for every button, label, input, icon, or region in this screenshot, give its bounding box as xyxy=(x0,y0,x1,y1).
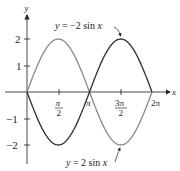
y-tick-label-neg2: −2 xyxy=(6,139,18,151)
x-tick-2pi: 2π xyxy=(151,98,161,108)
annotation-arrow-top xyxy=(114,27,121,36)
x-tick-pi-half-den: 2 xyxy=(57,108,62,118)
y-tick-label-1: 1 xyxy=(16,60,22,72)
sine-chart: x y 2 1 −1 −2 π 2 π 3π 2 2π y = −2 sin x… xyxy=(0,0,180,171)
annotation-2sinx: y = 2 sin x xyxy=(65,157,108,168)
annotation-neg2sinx: y = −2 sin x xyxy=(54,20,102,31)
y-axis-label: y xyxy=(24,3,29,13)
x-axis-label: x xyxy=(171,87,176,97)
y-tick-label-2: 2 xyxy=(15,33,21,45)
y-tick-label-neg1: −1 xyxy=(6,113,18,125)
x-tick-3pi-half-num: 3π xyxy=(115,98,125,108)
annotation-arrow-bottom xyxy=(115,148,120,162)
x-tick-pi-half-num: π xyxy=(56,98,61,108)
x-tick-3pi-half-den: 2 xyxy=(119,108,124,118)
